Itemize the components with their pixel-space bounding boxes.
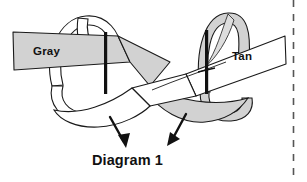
figure-caption: Diagram 1 bbox=[0, 152, 255, 168]
left-vertical-black-bar-icon bbox=[104, 32, 107, 94]
right-vertical-black-bar-icon bbox=[205, 30, 208, 94]
diagram-figure: Gray Tan Diagram 1 bbox=[0, 0, 307, 182]
